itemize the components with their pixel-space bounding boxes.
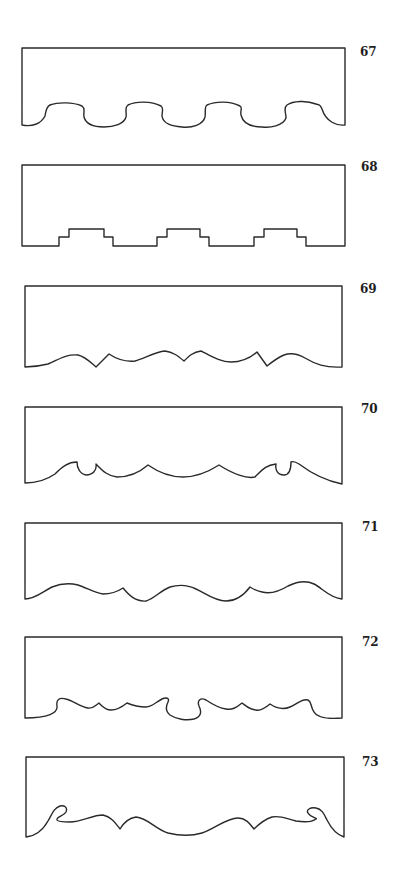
valance-patterns-drawing [0,0,399,877]
pattern-number-70: 70 [361,403,378,415]
pattern-68-outline [22,165,345,246]
pattern-67-outline [22,48,345,127]
pattern-number-73: 73 [362,756,379,768]
pattern-72-outline [25,637,342,720]
pattern-71-outline [25,523,342,601]
pattern-70-outline [25,407,342,484]
pattern-number-69: 69 [360,283,377,295]
pattern-69-outline [25,286,342,367]
pattern-number-67: 67 [360,46,377,58]
pattern-number-72: 72 [362,636,379,648]
pattern-number-68: 68 [361,161,378,173]
pattern-73-outline [26,757,344,837]
pattern-number-71: 71 [362,521,379,533]
